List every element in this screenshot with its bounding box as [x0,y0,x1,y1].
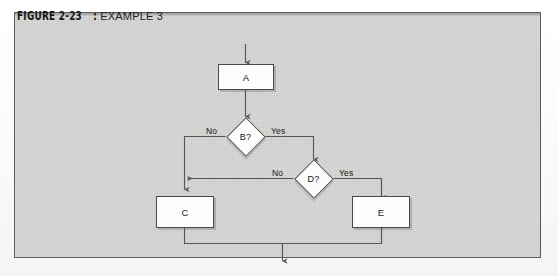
flowchart-node-a[interactable]: A [218,64,274,90]
node-c-label: C [181,207,188,218]
figure-title-text: EXAMPLE 3 [100,10,163,22]
node-a-label: A [243,72,250,83]
flowchart-node-e[interactable]: E [352,196,410,228]
edge-label-b-yes: Yes [271,126,285,136]
figure-page: FIGURE 2-23:EXAMPLE 3 [0,0,558,276]
flowchart-node-b[interactable]: B? [232,123,260,151]
node-d-label: D? [300,165,328,193]
edge-label-d-no: No [272,168,283,178]
edge-label-d-yes: Yes [339,168,353,178]
node-b-label: B? [232,123,260,151]
edge-label-b-no: No [206,126,217,136]
flowchart-node-d[interactable]: D? [300,165,328,193]
figure-caption: FIGURE 2-23:EXAMPLE 3 [17,7,163,23]
flowchart-node-c[interactable]: C [156,196,214,228]
figure-colon: : [93,11,97,23]
node-e-label: E [378,207,385,218]
figure-number: FIGURE 2-23 [17,11,82,23]
